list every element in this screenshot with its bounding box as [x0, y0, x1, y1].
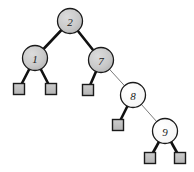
node-circle-1: [23, 46, 48, 71]
tree-canvas: 21789: [0, 0, 194, 172]
tree-node-7: 7: [89, 48, 114, 73]
tree-node-8: 8: [121, 83, 146, 108]
tree-node-9: 9: [153, 119, 178, 144]
tree-leaf-l3: [83, 85, 94, 96]
node-circle-2: [58, 9, 83, 34]
tree-leaf-l1: [14, 84, 25, 95]
node-circle-9: [153, 119, 178, 144]
tree-node-1: 1: [23, 46, 48, 71]
binary-tree-figure: 21789: [0, 0, 194, 172]
tree-leaf-l6: [175, 153, 186, 164]
tree-leaf-l5: [145, 153, 156, 164]
tree-leaf-l4: [113, 120, 124, 131]
node-circle-8: [121, 83, 146, 108]
tree-leaf-l2: [46, 84, 57, 95]
tree-node-2: 2: [58, 9, 83, 34]
node-circle-7: [89, 48, 114, 73]
